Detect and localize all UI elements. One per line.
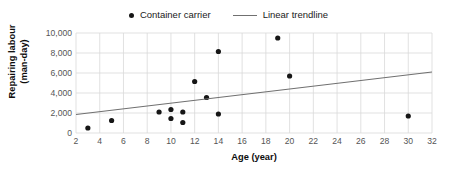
- y-axis-tick-label: 10,000: [28, 29, 72, 38]
- x-axis-tick-label: 26: [348, 137, 374, 146]
- data-point: [85, 125, 90, 130]
- legend-marker-line-icon: [233, 15, 257, 16]
- y-axis-tick-label: 8,000: [28, 49, 72, 58]
- x-axis-title: Age (year): [76, 152, 432, 162]
- legend-entry-linear-trendline: Linear trendline: [233, 10, 329, 20]
- x-axis-tick-label: 22: [300, 137, 326, 146]
- x-axis-tick-label: 8: [134, 137, 160, 146]
- legend-label-container-carrier: Container carrier: [140, 10, 211, 20]
- scatter-chart: Container carrier Linear trendline Repai…: [0, 0, 457, 170]
- y-axis-tick-label: 6,000: [28, 69, 72, 78]
- data-point: [406, 113, 411, 118]
- data-point: [287, 73, 292, 78]
- x-axis-tick-label: 6: [110, 137, 136, 146]
- x-axis-tick-label: 4: [87, 137, 113, 146]
- y-axis-title: Repairing labour (man-day): [7, 7, 30, 117]
- x-axis-tick-label: 20: [277, 137, 303, 146]
- plot-svg: [76, 33, 432, 133]
- x-axis-tick-label: 24: [324, 137, 350, 146]
- y-axis-title-line2: (man-day): [18, 39, 28, 83]
- x-axis-tick-label: 10: [158, 137, 184, 146]
- legend-marker-dot-icon: [129, 13, 134, 18]
- data-point: [180, 109, 185, 114]
- y-axis-tick-label: 2,000: [28, 109, 72, 118]
- data-point: [168, 116, 173, 121]
- data-point: [168, 107, 173, 112]
- data-point: [192, 79, 197, 84]
- x-axis-tick-label: 28: [372, 137, 398, 146]
- plot-area: [76, 33, 432, 133]
- legend-entry-container-carrier: Container carrier: [129, 10, 211, 20]
- data-point: [180, 120, 185, 125]
- x-axis-tick-label: 18: [253, 137, 279, 146]
- data-point: [109, 118, 114, 123]
- data-point: [216, 111, 221, 116]
- x-axis-tick-label: 32: [419, 137, 445, 146]
- x-axis-tick-label: 12: [182, 137, 208, 146]
- x-axis-tick-label: 16: [229, 137, 255, 146]
- y-axis-title-line1: Repairing labour: [7, 25, 17, 99]
- x-axis-tick-label: 30: [395, 137, 421, 146]
- y-axis-tick-label: 4,000: [28, 89, 72, 98]
- data-point: [216, 49, 221, 54]
- data-point: [275, 35, 280, 40]
- data-point: [156, 109, 161, 114]
- legend-label-linear-trendline: Linear trendline: [263, 10, 329, 20]
- chart-legend: Container carrier Linear trendline: [0, 6, 457, 24]
- x-axis-tick-label: 14: [205, 137, 231, 146]
- x-axis-tick-label: 2: [63, 137, 89, 146]
